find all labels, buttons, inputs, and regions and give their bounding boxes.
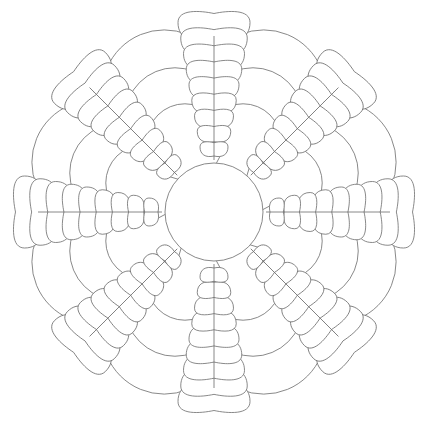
center-circle — [165, 163, 263, 261]
mandala-artwork — [0, 0, 430, 423]
